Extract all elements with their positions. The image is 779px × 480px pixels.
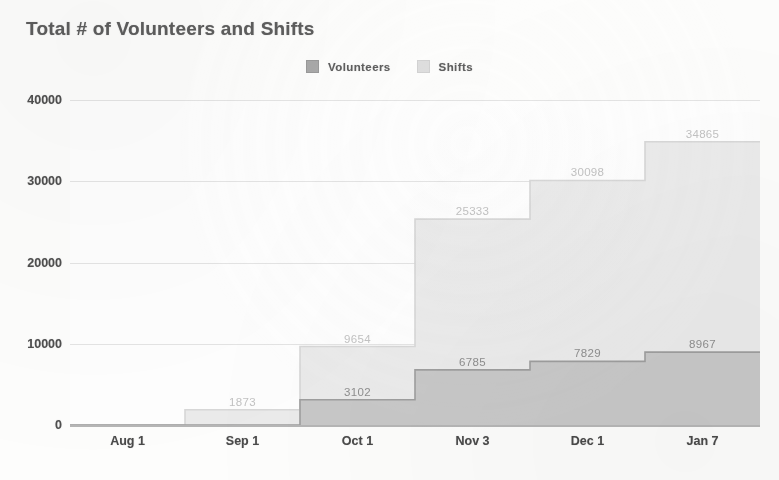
y-tick-10000: 10000 — [27, 337, 62, 351]
x-tick-jan-7: Jan 7 — [687, 434, 719, 448]
data-label-shifts-nov-3: 25333 — [456, 205, 489, 217]
y-tick-40000: 40000 — [27, 93, 62, 107]
plot-area: 010000200003000040000 187396542533330098… — [70, 100, 760, 425]
chart-legend: Volunteers Shifts — [0, 60, 779, 73]
legend-swatch-shifts-icon — [417, 60, 430, 73]
series-layer — [70, 100, 760, 425]
y-tick-0: 0 — [55, 418, 62, 432]
data-label-volunteers-oct-1: 3102 — [344, 386, 371, 398]
legend-item-volunteers[interactable]: Volunteers — [306, 60, 391, 73]
y-tick-30000: 30000 — [27, 174, 62, 188]
x-tick-oct-1: Oct 1 — [342, 434, 373, 448]
data-label-volunteers-dec-1: 7829 — [574, 347, 601, 359]
y-tick-20000: 20000 — [27, 256, 62, 270]
legend-label-shifts: Shifts — [439, 61, 473, 73]
legend-swatch-volunteers-icon — [306, 60, 319, 73]
x-tick-sep-1: Sep 1 — [226, 434, 259, 448]
x-tick-dec-1: Dec 1 — [571, 434, 604, 448]
legend-label-volunteers: Volunteers — [328, 61, 391, 73]
chart-container: Total # of Volunteers and Shifts Volunte… — [0, 0, 779, 480]
data-label-volunteers-jan-7: 8967 — [689, 338, 716, 350]
legend-item-shifts[interactable]: Shifts — [417, 60, 473, 73]
data-label-shifts-sep-1: 1873 — [229, 396, 256, 408]
data-label-shifts-jan-7: 34865 — [686, 128, 719, 140]
gridline-0 — [70, 425, 760, 427]
chart-title: Total # of Volunteers and Shifts — [26, 18, 315, 40]
x-tick-nov-3: Nov 3 — [455, 434, 489, 448]
data-label-shifts-dec-1: 30098 — [571, 166, 604, 178]
data-label-shifts-oct-1: 9654 — [344, 333, 371, 345]
x-tick-aug-1: Aug 1 — [110, 434, 145, 448]
data-label-volunteers-nov-3: 6785 — [459, 356, 486, 368]
